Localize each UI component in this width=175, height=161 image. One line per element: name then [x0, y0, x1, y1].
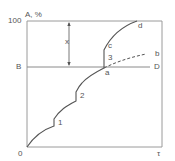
- arrow-head-up: [67, 22, 70, 26]
- d-line-label: D: [154, 63, 160, 71]
- main-curve: [27, 21, 137, 147]
- point-label-b: b: [155, 50, 159, 58]
- origin-label: 0: [18, 150, 22, 158]
- arrow-head-down: [67, 62, 70, 66]
- step-label-2: 2: [80, 92, 84, 100]
- point-label-c: c: [108, 42, 112, 50]
- y-label-b: B: [16, 63, 21, 71]
- y-tick-100: 100: [8, 17, 21, 25]
- point-label-a: a: [105, 69, 109, 77]
- y-axis-label: A, %: [25, 11, 42, 19]
- diagram-canvas: [0, 0, 175, 161]
- x-axis-label: τ: [157, 150, 160, 158]
- point-label-d: d: [138, 22, 142, 30]
- step-label-3: 3: [108, 54, 112, 62]
- step-label-1: 1: [58, 119, 62, 127]
- gap-label: x: [65, 38, 69, 46]
